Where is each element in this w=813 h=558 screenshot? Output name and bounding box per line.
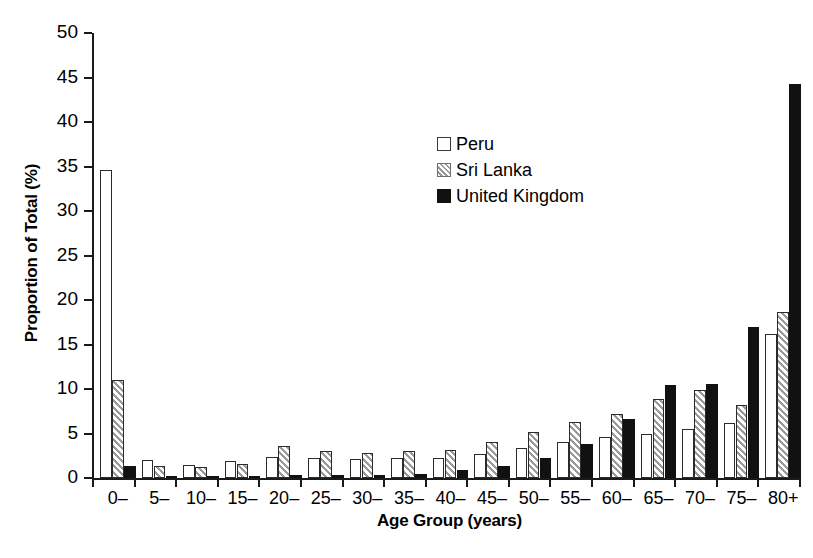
legend-label: United Kingdom [456, 183, 584, 209]
x-tick-mark [92, 479, 94, 487]
legend-item: Peru [437, 131, 584, 157]
y-tick-label: 45 [18, 67, 78, 87]
bar-sri-lanka [362, 453, 374, 478]
bar-sri-lanka [445, 450, 457, 478]
y-tick-label: 30 [18, 200, 78, 220]
bar-sri-lanka [694, 390, 706, 478]
x-tick-mark [258, 479, 260, 487]
bar-peru [474, 454, 486, 478]
x-tick-mark [549, 479, 551, 487]
bar-group [225, 33, 261, 478]
y-tick-mark [84, 210, 92, 212]
bar-peru [391, 458, 403, 478]
bar-peru [641, 434, 653, 479]
bar-sri-lanka [486, 442, 498, 478]
filled-square-icon [437, 189, 451, 203]
bar-sri-lanka [237, 464, 249, 478]
x-axis-title: Age Group (years) [96, 511, 803, 531]
bar-peru [308, 458, 320, 478]
y-tick-label: 50 [18, 22, 78, 42]
bar-united-kingdom [207, 476, 219, 478]
y-tick-label: 40 [18, 111, 78, 131]
bar-sri-lanka [195, 467, 207, 478]
y-tick-mark [84, 32, 92, 34]
x-tick-mark [508, 479, 510, 487]
y-tick-label: 15 [18, 334, 78, 354]
bar-united-kingdom [124, 466, 136, 478]
x-tick-mark [175, 479, 177, 487]
bar-group [433, 33, 469, 478]
x-tick-mark [716, 479, 718, 487]
bar-united-kingdom [706, 384, 718, 478]
x-tick-mark [134, 479, 136, 487]
bar-sri-lanka [736, 405, 748, 478]
y-tick-mark [84, 255, 92, 257]
bar-united-kingdom [623, 419, 635, 478]
bar-united-kingdom [415, 474, 427, 478]
bar-united-kingdom [166, 476, 178, 478]
bar-peru [350, 459, 362, 478]
y-tick-mark [84, 121, 92, 123]
bar-sri-lanka [653, 399, 665, 478]
bar-peru [225, 461, 237, 478]
bar-sri-lanka [112, 380, 124, 478]
x-tick-mark [425, 479, 427, 487]
bar-peru [100, 170, 112, 478]
bar-united-kingdom [290, 475, 302, 478]
bar-united-kingdom [540, 458, 552, 478]
bar-united-kingdom [581, 444, 593, 478]
bar-group [641, 33, 677, 478]
bar-group [308, 33, 344, 478]
y-tick-mark [84, 477, 92, 479]
bar-group [682, 33, 718, 478]
x-tick-mark [799, 479, 801, 487]
y-tick-mark [84, 433, 92, 435]
bar-group [724, 33, 760, 478]
x-tick-mark [383, 479, 385, 487]
bar-peru [724, 423, 736, 478]
bar-united-kingdom [457, 470, 469, 478]
bar-sri-lanka [154, 466, 166, 478]
y-axis-line [92, 33, 94, 479]
y-tick-mark [84, 299, 92, 301]
bar-group [765, 33, 801, 478]
x-tick-label: 80+ [753, 488, 813, 508]
bar-united-kingdom [665, 385, 677, 478]
y-tick-mark [84, 388, 92, 390]
bar-peru [433, 458, 445, 478]
y-tick-label: 20 [18, 289, 78, 309]
bar-group [266, 33, 302, 478]
bar-group [516, 33, 552, 478]
bar-united-kingdom [374, 475, 386, 478]
bar-peru [516, 448, 528, 478]
x-tick-mark [591, 479, 593, 487]
bar-group [474, 33, 510, 478]
bar-group [142, 33, 178, 478]
bar-group [557, 33, 593, 478]
x-tick-mark [342, 479, 344, 487]
bar-united-kingdom [498, 466, 510, 478]
bar-united-kingdom [332, 475, 344, 478]
bar-peru [266, 457, 278, 478]
bar-group [183, 33, 219, 478]
bar-sri-lanka [320, 451, 332, 478]
bar-group [350, 33, 386, 478]
x-tick-mark [757, 479, 759, 487]
bar-united-kingdom [748, 327, 760, 478]
bar-peru [599, 437, 611, 478]
bar-sri-lanka [278, 446, 290, 478]
chart-legend: PeruSri LankaUnited Kingdom [437, 131, 584, 209]
bar-group [391, 33, 427, 478]
bar-united-kingdom [789, 84, 801, 478]
legend-item: Sri Lanka [437, 157, 584, 183]
y-tick-mark [84, 77, 92, 79]
legend-label: Sri Lanka [456, 157, 532, 183]
chart-figure: Proportion of Total (%) 0510152025303540… [0, 0, 813, 558]
bar-group [599, 33, 635, 478]
y-tick-mark [84, 344, 92, 346]
hatched-square-icon [437, 163, 451, 177]
y-tick-label: 10 [18, 378, 78, 398]
x-tick-mark [217, 479, 219, 487]
bar-peru [142, 460, 154, 478]
y-tick-label: 0 [18, 467, 78, 487]
